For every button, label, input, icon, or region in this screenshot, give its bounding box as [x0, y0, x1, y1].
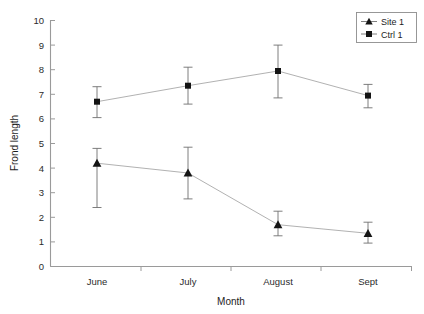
- x-tick-label-august: August: [263, 276, 293, 287]
- square-marker: [366, 31, 372, 37]
- markers-ctrl-1: [94, 68, 371, 105]
- x-tick-label-july: July: [180, 276, 197, 287]
- y-tick-label: 2: [39, 212, 44, 223]
- series-line-site-1: [97, 163, 368, 233]
- markers-site-1: [93, 159, 373, 237]
- axis-group: [51, 20, 413, 267]
- y-tick-label: 8: [39, 64, 44, 75]
- x-tick-label-june: June: [87, 276, 108, 287]
- y-tick-label: 4: [39, 163, 44, 174]
- y-tick-label: 5: [39, 138, 44, 149]
- square-marker: [185, 83, 191, 89]
- y-tick-label: 6: [39, 113, 44, 124]
- series-line-ctrl-1: [97, 71, 368, 102]
- chart-canvas: 10 9 8 7 6 5 4 3 2 1 0 June July August …: [0, 0, 424, 314]
- x-tick-labels: June July August Sept: [87, 276, 378, 287]
- triangle-marker: [274, 220, 283, 228]
- error-bars-site-1: [93, 147, 373, 243]
- y-tick-label: 7: [39, 89, 44, 100]
- y-tick-label: 0: [39, 261, 44, 272]
- y-axis-title: Frond length: [9, 115, 20, 171]
- square-marker: [275, 68, 281, 74]
- y-tick-label: 1: [39, 236, 44, 247]
- square-marker: [365, 93, 371, 99]
- frond-length-line-chart: 10 9 8 7 6 5 4 3 2 1 0 June July August …: [0, 0, 424, 314]
- error-bars-ctrl-1: [93, 45, 373, 118]
- legend: Site 1 Ctrl 1: [357, 13, 417, 43]
- y-tick-label: 3: [39, 187, 44, 198]
- y-tick-label: 10: [33, 15, 44, 26]
- legend-label-site-1: Site 1: [381, 17, 404, 27]
- x-tick-label-sept: Sept: [358, 276, 378, 287]
- triangle-marker: [93, 159, 102, 167]
- x-axis-title: Month: [217, 296, 245, 307]
- y-tick-labels: 10 9 8 7 6 5 4 3 2 1 0: [33, 15, 44, 272]
- square-marker: [94, 99, 100, 105]
- y-tick-label: 9: [39, 40, 44, 51]
- y-tick-marks: [51, 21, 56, 267]
- legend-label-ctrl-1: Ctrl 1: [381, 30, 403, 40]
